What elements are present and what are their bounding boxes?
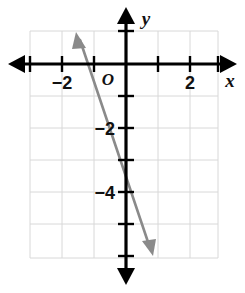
- y-axis: [117, 7, 135, 285]
- coordinate-plane-svg: −2 2 −2 −4 O x y: [0, 0, 245, 293]
- origin-label: O: [102, 70, 114, 89]
- y-tick-label-neg2: −2: [94, 119, 115, 139]
- line-arrow-down: [142, 239, 156, 256]
- x-tick-label-2: 2: [185, 73, 195, 93]
- y-axis-label: y: [140, 8, 151, 29]
- y-axis-arrow-down: [117, 268, 135, 285]
- y-axis-arrow-up: [117, 7, 135, 24]
- x-tick-label-neg2: −2: [52, 73, 73, 93]
- x-axis: [8, 55, 237, 73]
- line-arrow-up: [72, 32, 86, 49]
- line-segment: [80, 40, 149, 245]
- y-tick-label-neg4: −4: [94, 183, 115, 203]
- graph-figure: −2 2 −2 −4 O x y: [0, 0, 245, 293]
- x-axis-label: x: [224, 70, 235, 91]
- x-axis-arrow-left: [8, 55, 25, 73]
